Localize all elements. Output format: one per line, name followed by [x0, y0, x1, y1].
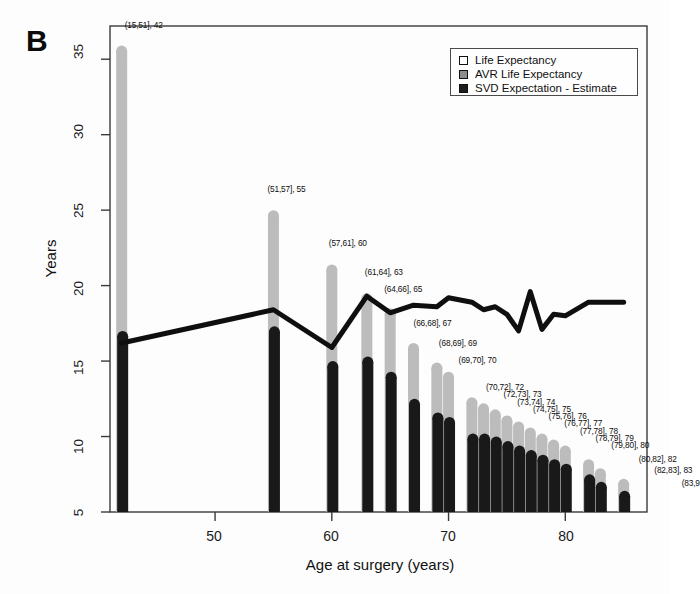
bar-svd-expectation [619, 491, 630, 512]
bar-svd-expectation [549, 459, 560, 512]
bar-svd-expectation [584, 474, 595, 512]
bar-value-label: (51,57], 55 [267, 184, 305, 194]
legend-label-avr-life-expectancy: AVR Life Expectancy [475, 69, 582, 80]
bar-value-label: (66,68], 67 [414, 318, 452, 328]
legend-label-life-expectancy: Life Expectancy [475, 55, 556, 66]
bar-svd-expectation [514, 446, 525, 512]
bar-value-label: (57,61], 60 [329, 238, 367, 248]
legend: Life Expectancy AVR Life Expectancy SVD … [450, 48, 638, 96]
bar-svd-expectation [526, 450, 537, 512]
bar-svd-expectation [444, 417, 455, 512]
legend-item-life-expectancy[interactable]: Life Expectancy [459, 53, 556, 68]
bar-svd-expectation [502, 441, 513, 512]
bar-svd-expectation [117, 331, 128, 512]
bar-value-label: (15,51], 42 [125, 20, 163, 30]
legend-swatch-svd-expectation [459, 84, 468, 93]
bar-svd-expectation [537, 455, 548, 512]
bar-value-label: (82,83], 83 [654, 465, 692, 475]
bar-svd-expectation [327, 361, 338, 512]
legend-item-svd-expectation[interactable]: SVD Expectation - Estimate [459, 81, 617, 96]
bar-svd-expectation [409, 399, 420, 512]
bar-value-label: (83,9 [682, 478, 700, 488]
bar-value-label: (69,70], 70 [459, 355, 497, 365]
bar-svd-expectation [561, 464, 572, 512]
bar-value-label: (68,69], 69 [439, 338, 477, 348]
bar-svd-expectation [479, 434, 490, 512]
bar-value-label: (61,64], 63 [365, 267, 403, 277]
bar-svd-expectation [467, 434, 478, 512]
bar-svd-expectation [596, 482, 607, 512]
bar-value-label: (79,80], 80 [611, 440, 649, 450]
legend-swatch-life-expectancy [459, 56, 468, 65]
legend-swatch-avr-life-expectancy [459, 70, 468, 79]
line-avr-life-expectancy [122, 292, 624, 348]
legend-item-avr-life-expectancy[interactable]: AVR Life Expectancy [459, 67, 582, 82]
bar-svd-expectation [269, 326, 280, 512]
bar-value-label: (64,66], 65 [384, 284, 422, 294]
legend-label-svd-expectation: SVD Expectation - Estimate [475, 83, 617, 94]
bar-value-label: (80,82], 82 [639, 454, 677, 464]
bar-svd-expectation [491, 437, 502, 512]
bar-svd-expectation [432, 412, 443, 512]
bar-svd-expectation [386, 372, 397, 512]
bar-svd-expectation [362, 357, 373, 512]
